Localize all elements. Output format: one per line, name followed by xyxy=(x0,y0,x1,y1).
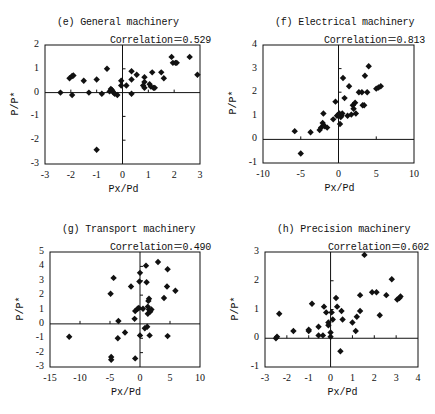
y-axis-label: P/P* xyxy=(15,296,26,320)
data-point-diamond xyxy=(362,72,368,78)
data-point-diamond xyxy=(115,335,121,341)
data-point-diamond xyxy=(158,69,164,75)
y-tick-label: 0 xyxy=(28,317,44,328)
plot-canvas xyxy=(0,0,435,414)
correlation-annotation: Correlation＝0.529 xyxy=(110,31,211,46)
data-point-diamond xyxy=(123,82,129,88)
y-tick-label: 2 xyxy=(243,274,259,285)
data-point-diamond xyxy=(136,278,142,284)
y-axis-label: P/P* xyxy=(228,90,239,114)
data-point-diamond xyxy=(134,72,140,78)
x-tick-label: -3 xyxy=(257,372,273,383)
x-tick-label: 0 xyxy=(132,372,148,383)
data-point-diamond xyxy=(320,332,326,338)
x-axis-label: Px/Pd xyxy=(325,183,355,194)
data-point-diamond xyxy=(337,348,343,354)
data-point-diamond xyxy=(292,128,298,134)
data-point-diamond xyxy=(131,316,137,322)
data-point-diamond xyxy=(132,355,138,361)
y-tick-label: 2 xyxy=(241,85,257,96)
y-tick-label: 4 xyxy=(241,38,257,49)
x-tick-label: -15 xyxy=(42,372,58,383)
chart-title: (e) General machinery xyxy=(57,17,179,28)
y-tick-label: -3 xyxy=(23,157,39,168)
data-point-diamond xyxy=(104,66,110,72)
data-point-diamond xyxy=(186,54,192,60)
correlation-annotation: Correlation＝0.813 xyxy=(324,31,425,46)
data-point-diamond xyxy=(168,54,174,60)
x-tick-label: 1 xyxy=(140,169,156,180)
chart-title: (h) Precision machinery xyxy=(277,224,410,235)
data-point-diamond xyxy=(143,262,149,268)
data-point-diamond xyxy=(110,275,116,281)
data-point-diamond xyxy=(332,98,338,104)
y-tick-label: 4 xyxy=(28,259,44,270)
chart-title: (f) Electrical machinery xyxy=(275,17,414,28)
y-tick-label: 3 xyxy=(241,62,257,73)
data-point-diamond xyxy=(328,309,334,315)
data-point-diamond xyxy=(164,266,170,272)
x-tick-label: 5 xyxy=(162,372,178,383)
x-tick-label: 10 xyxy=(406,168,422,179)
x-axis-label: Px/Pd xyxy=(111,387,141,398)
x-tick-label: -2 xyxy=(279,372,295,383)
y-tick-label: -3 xyxy=(28,360,44,371)
data-point-diamond xyxy=(115,318,121,324)
y-tick-label: 1 xyxy=(28,303,44,314)
data-point-diamond xyxy=(57,89,63,95)
correlation-annotation: Correlation＝0.490 xyxy=(110,238,211,253)
y-axis-label: P/P* xyxy=(230,296,241,320)
y-tick-label: -2 xyxy=(28,346,44,357)
data-point-diamond xyxy=(366,63,372,69)
x-tick-label: 0 xyxy=(323,372,339,383)
x-tick-label: 1 xyxy=(344,372,360,383)
data-point-diamond xyxy=(128,283,134,289)
plot-frame xyxy=(50,252,200,367)
y-tick-label: 3 xyxy=(243,245,259,256)
data-point-diamond xyxy=(128,91,134,97)
data-point-diamond xyxy=(161,295,167,301)
y-tick-label: 0 xyxy=(243,331,259,342)
y-tick-label: -2 xyxy=(23,133,39,144)
data-point-diamond xyxy=(353,328,359,334)
y-tick-label: 1 xyxy=(243,303,259,314)
data-point-diamond xyxy=(364,89,370,95)
correlation-annotation: Correlation＝0.602 xyxy=(328,238,429,253)
y-tick-label: -1 xyxy=(23,109,39,120)
data-point-diamond xyxy=(66,334,72,340)
y-tick-label: -1 xyxy=(28,331,44,342)
data-point-diamond xyxy=(346,83,352,89)
data-point-diamond xyxy=(164,333,170,339)
x-tick-label: 0 xyxy=(115,169,131,180)
data-point-diamond xyxy=(128,76,134,82)
y-tick-label: -1 xyxy=(243,360,259,371)
x-tick-label: -3 xyxy=(37,169,53,180)
data-point-diamond xyxy=(143,279,149,285)
y-tick-label: 5 xyxy=(28,245,44,256)
data-point-diamond xyxy=(172,288,178,294)
data-point-diamond xyxy=(327,329,333,335)
data-point-diamond xyxy=(338,308,344,314)
data-point-diamond xyxy=(334,303,340,309)
x-tick-label: 3 xyxy=(192,169,208,180)
data-point-diamond xyxy=(377,312,383,318)
y-tick-label: 2 xyxy=(23,38,39,49)
data-point-diamond xyxy=(137,270,143,276)
data-point-diamond xyxy=(307,129,313,135)
data-point-diamond xyxy=(137,332,143,338)
data-point-diamond xyxy=(323,309,329,315)
data-point-diamond xyxy=(298,150,304,156)
x-tick-label: -10 xyxy=(255,168,271,179)
data-point-diamond xyxy=(320,110,326,116)
data-point-diamond xyxy=(81,78,87,84)
x-tick-label: 2 xyxy=(366,372,382,383)
data-point-diamond xyxy=(357,308,363,314)
data-point-diamond xyxy=(340,75,346,81)
data-point-diamond xyxy=(333,295,339,301)
y-tick-label: 2 xyxy=(28,288,44,299)
data-point-diamond xyxy=(146,332,152,338)
data-point-diamond xyxy=(86,89,92,95)
data-point-diamond xyxy=(339,316,345,322)
data-point-diamond xyxy=(315,324,321,330)
x-axis-label: Px/Pd xyxy=(328,387,358,398)
